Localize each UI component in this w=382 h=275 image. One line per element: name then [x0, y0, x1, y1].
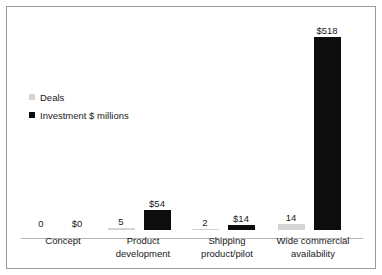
legend-swatch-investment	[29, 112, 35, 118]
bar-label-deals-1: 5	[101, 216, 141, 227]
bar-label-investment-0: $0	[55, 218, 99, 229]
legend-label-deals: Deals	[40, 92, 64, 103]
bar-deals-1[interactable]	[108, 228, 135, 230]
legend-item-deals[interactable]: Deals	[29, 89, 199, 105]
legend-label-investment: Investment $ millions	[40, 110, 129, 121]
category-label-line: Wide commercial	[253, 235, 373, 248]
bar-investment-1[interactable]	[144, 210, 171, 230]
bar-deals-3[interactable]	[278, 224, 305, 230]
legend-swatch-deals	[29, 94, 35, 100]
bar-label-investment-3: $518	[305, 25, 349, 36]
legend-item-investment[interactable]: Investment $ millions	[29, 107, 199, 123]
bar-label-deals-3: 14	[271, 212, 311, 223]
bar-investment-2[interactable]	[228, 225, 255, 230]
bar-label-investment-2: $14	[219, 213, 263, 224]
category-label-line: availability	[253, 248, 373, 261]
chart-frame: Deals Investment $ millions 0$05$542$141…	[6, 6, 376, 269]
plot-area: Deals Investment $ millions 0$05$542$141…	[7, 7, 375, 268]
bar-label-investment-1: $54	[135, 198, 179, 209]
chart-legend: Deals Investment $ millions	[29, 89, 199, 125]
bar-investment-3[interactable]	[314, 37, 341, 230]
bar-deals-2[interactable]	[192, 229, 219, 230]
category-label-3: Wide commercialavailability	[253, 235, 373, 260]
